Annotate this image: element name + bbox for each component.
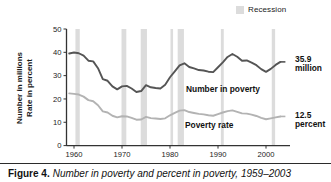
figure-container: Recession 01020304050 196019701980199020… xyxy=(0,0,331,182)
series-label-poverty-rate: Poverty rate xyxy=(185,120,234,130)
x-tick-group: 19601970198019902000 xyxy=(66,146,275,159)
y-axis-title-line1: Number in millions xyxy=(15,51,24,124)
y-tick-label: 40 xyxy=(53,48,61,57)
series-line xyxy=(69,93,280,119)
y-axis-title-line2: Rate in percent xyxy=(25,59,34,117)
plot-area: 01020304050 19601970198019902000 Number … xyxy=(0,0,331,165)
recession-band xyxy=(178,29,184,146)
y-tick-label: 20 xyxy=(53,95,61,104)
y-tick-label: 0 xyxy=(57,141,61,150)
y-tick-label: 30 xyxy=(53,71,61,80)
figure-caption: Figure 4. Number in poverty and percent … xyxy=(0,163,331,182)
recession-band xyxy=(170,29,173,146)
end-label-number-unit: million xyxy=(295,63,322,73)
caption-text: Number in poverty and percent in poverty… xyxy=(53,168,291,179)
x-tick-label: 1970 xyxy=(114,150,131,159)
series-label-number-in-poverty: Number in poverty xyxy=(186,84,260,94)
y-tick-label: 50 xyxy=(53,25,61,34)
end-label-rate-unit: percent xyxy=(295,119,325,129)
y-axis-title: Number in millions Rate in percent xyxy=(15,51,34,124)
recession-band xyxy=(75,29,79,146)
y-tick-label: 10 xyxy=(53,118,61,127)
recession-band xyxy=(272,29,275,146)
chart-svg: 01020304050 19601970198019902000 Number … xyxy=(0,0,331,165)
x-tick-label: 1990 xyxy=(210,150,227,159)
y-tick-group: 01020304050 xyxy=(53,25,66,151)
caption-number: Figure 4. xyxy=(8,168,50,179)
x-tick-label: 2000 xyxy=(258,150,275,159)
x-tick-label: 1980 xyxy=(162,150,179,159)
x-tick-label: 1960 xyxy=(66,150,83,159)
